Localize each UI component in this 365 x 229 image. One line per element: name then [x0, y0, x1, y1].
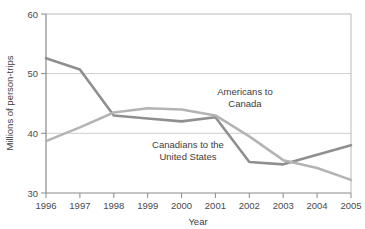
y-tick-label-50: 50	[27, 68, 38, 79]
x-tick-label-2005: 2005	[340, 200, 361, 211]
x-tick-label-2003: 2003	[273, 200, 294, 211]
x-axis-tick-labels: 1996 1997 1998 1999 2000 2001 2002 2003 …	[35, 200, 361, 211]
annotation-canadians-to-united-states-line2: United States	[159, 151, 216, 162]
annotation-canadians-to-united-states-line1: Canadians to the	[152, 139, 224, 150]
x-tick-label-1999: 1999	[137, 200, 158, 211]
y-axis-title: Millions of person-trips	[4, 55, 15, 150]
annotation-americans-to-canada-line2: Canada	[228, 98, 262, 109]
x-axis-title: Year	[188, 216, 207, 227]
x-axis-ticks	[46, 193, 351, 198]
y-tick-label-30: 30	[27, 188, 38, 199]
x-tick-label-1997: 1997	[69, 200, 90, 211]
annotation-canadians-to-united-states: Canadians to the United States	[152, 139, 224, 162]
chart-canvas: 60 50 40 30 1996 1997 1998 1999 2000 200…	[0, 0, 365, 229]
y-tick-label-40: 40	[27, 128, 38, 139]
y-tick-label-60: 60	[27, 9, 38, 20]
x-tick-label-2001: 2001	[205, 200, 226, 211]
x-tick-label-2002: 2002	[239, 200, 260, 211]
y-axis-tick-labels: 60 50 40 30	[27, 9, 38, 199]
line-chart-person-trips: 60 50 40 30 1996 1997 1998 1999 2000 200…	[0, 0, 365, 229]
x-tick-label-1996: 1996	[35, 200, 56, 211]
x-tick-label-2004: 2004	[307, 200, 328, 211]
x-tick-label-2000: 2000	[171, 200, 192, 211]
x-tick-label-1998: 1998	[103, 200, 124, 211]
annotation-americans-to-canada-line1: Americans to	[217, 86, 272, 97]
y-axis-ticks	[41, 14, 46, 193]
